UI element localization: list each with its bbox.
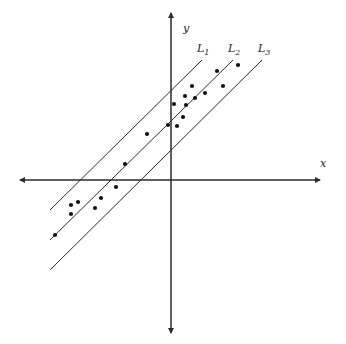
- data-point: [184, 103, 188, 107]
- data-point: [236, 63, 240, 67]
- data-points: [53, 63, 240, 237]
- y-axis-label: y: [182, 22, 190, 35]
- data-point: [99, 196, 103, 200]
- data-point: [69, 203, 73, 207]
- data-point: [93, 206, 97, 210]
- data-point: [181, 115, 185, 119]
- data-point: [183, 94, 187, 98]
- data-point: [166, 123, 170, 127]
- line-L1: [50, 60, 202, 210]
- axes: [20, 13, 320, 333]
- data-point: [69, 212, 73, 216]
- data-point: [172, 102, 176, 106]
- line-L2: [50, 60, 233, 240]
- diagram-canvas: L1L2L3xy: [0, 0, 346, 344]
- data-point: [145, 132, 149, 136]
- fit-lines: [50, 60, 262, 270]
- data-point: [221, 84, 225, 88]
- labels: L1L2L3xy: [182, 22, 327, 170]
- data-point: [175, 124, 179, 128]
- line-label-L3: L3: [257, 42, 270, 57]
- line-label-L2: L2: [227, 42, 240, 57]
- data-point: [53, 233, 57, 237]
- data-point: [193, 96, 197, 100]
- data-point: [76, 200, 80, 204]
- line-L3: [50, 60, 262, 270]
- data-point: [190, 84, 194, 88]
- data-point: [215, 69, 219, 73]
- line-label-L1: L1: [196, 42, 209, 57]
- data-point: [123, 162, 127, 166]
- data-point: [203, 91, 207, 95]
- x-axis-label: x: [320, 157, 327, 170]
- data-point: [114, 185, 118, 189]
